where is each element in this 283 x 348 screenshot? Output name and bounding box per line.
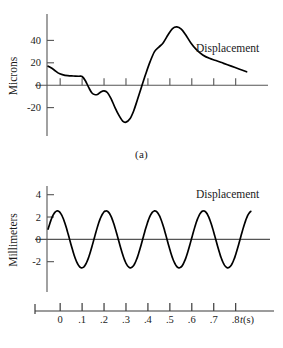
panel-a-y-axis-title: Microns (7, 56, 19, 95)
panel-b-y-tick-label: 0 (36, 234, 41, 245)
panel-b-y-tick-label: 4 (36, 189, 42, 200)
panel-b-y-tick-label: 2 (36, 212, 41, 223)
panel-b-x-axis-title: t(s) (240, 314, 255, 326)
panel-a-series-label: Displacement (196, 42, 260, 55)
plot-a-svg: 40200-20MicronsDisplacement (0, 0, 283, 148)
panel-a-y-tick-label: -20 (27, 102, 41, 113)
panel-b-y-axis-title: Millimeters (7, 213, 19, 267)
panel-b-x-tick-label: .2 (100, 314, 108, 325)
panel-b-x-tick-label: .4 (144, 314, 153, 325)
panel-b-x-tick-label: .5 (166, 314, 174, 325)
panel-a-y-tick-label: 0 (36, 80, 41, 91)
panel-b-x-tick-label: 0 (58, 314, 63, 325)
panel-b: 420-2MillimetersDisplacement0.1.2.3.4.5.… (0, 174, 283, 348)
plot-b-svg: 420-2MillimetersDisplacement0.1.2.3.4.5.… (0, 174, 283, 327)
panel-b-y-tick-label: -2 (32, 256, 41, 267)
figure-container: 40200-20MicronsDisplacement (a) 420-2Mil… (0, 0, 283, 348)
panel-a-y-tick-label: 40 (31, 35, 42, 46)
panel-b-x-tick-label: .7 (210, 314, 218, 325)
panel-a-y-tick-label: 20 (31, 57, 42, 68)
panel-a-caption: (a) (0, 148, 283, 160)
panel-b-x-tick-label: .8 (232, 314, 240, 325)
panel-a: 40200-20MicronsDisplacement (a) (0, 0, 283, 174)
panel-b-series-label: Displacement (196, 188, 260, 201)
panel-b-x-tick-label: .3 (122, 314, 130, 325)
panel-b-x-tick-label: .1 (78, 314, 86, 325)
panel-b-x-tick-label: .6 (188, 314, 196, 325)
